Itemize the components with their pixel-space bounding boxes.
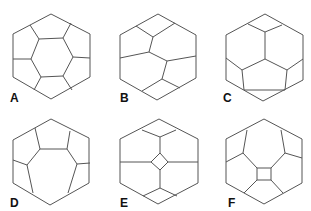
panel-e-drawing <box>120 119 198 204</box>
panel-b-drawing <box>120 14 196 100</box>
panel-label-f: F <box>228 197 235 209</box>
panel-label-d: D <box>10 197 19 209</box>
panel-label-c: C <box>223 92 232 104</box>
panel-f-drawing <box>226 119 302 204</box>
diagram-canvas <box>0 0 311 211</box>
panel-c-drawing <box>226 14 303 101</box>
panel-a-drawing <box>13 14 90 99</box>
panel-label-e: E <box>120 197 128 209</box>
panel-label-a: A <box>10 92 19 104</box>
panel-d-drawing <box>13 119 90 205</box>
panel-label-b: B <box>120 92 129 104</box>
